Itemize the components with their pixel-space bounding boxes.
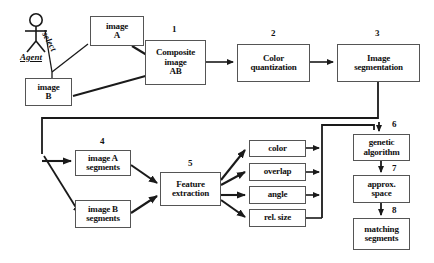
node-feature-overlap-label: overlap [264, 167, 292, 176]
step-number-8: 8 [392, 205, 397, 215]
node-quantization-line-1: quantization [250, 63, 296, 72]
node-approx-line-1: space [372, 189, 392, 198]
flowchart-canvas: Agent select image A image B Composite i… [0, 0, 434, 263]
node-color-quantization[interactable]: Color quantization [237, 44, 310, 82]
node-image-b-line-1: B [46, 92, 52, 101]
node-feature-color-label: color [268, 144, 287, 153]
step-number-5: 5 [188, 158, 193, 168]
arrow-image-a-segments-to-feature [131, 165, 157, 183]
node-image-b-segments[interactable]: image B segments [75, 200, 131, 228]
node-feature-extraction-line-1: extraction [172, 189, 209, 198]
step-number-7: 7 [392, 163, 397, 173]
node-image-b[interactable]: image B [25, 78, 72, 106]
node-image-b-segments-line-1: segments [86, 214, 119, 223]
node-feature-overlap[interactable]: overlap [249, 163, 306, 181]
node-composite-image-ab[interactable]: Composite image AB [145, 40, 206, 85]
node-segmentation-line-1: segmentation [354, 63, 403, 72]
arrow-image-b-segments-to-feature [131, 196, 157, 213]
node-feature-rel-size[interactable]: rel. size [249, 209, 306, 227]
node-genetic-line-1: algorithm [363, 148, 399, 157]
node-feature-angle-label: angle [268, 190, 288, 199]
node-image-a[interactable]: image A [90, 16, 144, 46]
node-approx-space[interactable]: approx. space [353, 175, 410, 203]
node-matching-line-1: segments [365, 234, 398, 243]
node-feature-color[interactable]: color [249, 140, 306, 157]
step-number-1: 1 [172, 24, 177, 34]
node-image-a-line-1: A [114, 31, 120, 40]
node-matching-segments[interactable]: matching segments [353, 218, 410, 250]
bus-segmentation-to-segments [42, 82, 378, 154]
step-number-4: 4 [100, 136, 105, 146]
node-feature-rel-size-label: rel. size [264, 213, 291, 222]
step-number-6: 6 [392, 119, 397, 129]
step-number-3: 3 [375, 28, 380, 38]
node-image-a-segments[interactable]: image A segments [75, 150, 131, 176]
arrow-feature-to-color [221, 150, 245, 180]
node-feature-angle[interactable]: angle [249, 186, 306, 204]
node-image-segmentation[interactable]: Image segmentation [337, 44, 420, 82]
node-image-a-segments-line-1: segments [86, 163, 119, 172]
step-number-2: 2 [271, 28, 276, 38]
node-feature-extraction[interactable]: Feature extraction [160, 172, 221, 206]
node-composite-line-2: AB [169, 67, 181, 76]
agent-label: Agent [20, 52, 42, 62]
node-genetic-algorithm[interactable]: genetic algorithm [353, 134, 410, 161]
arrow-feature-to-rel-size [221, 200, 245, 217]
